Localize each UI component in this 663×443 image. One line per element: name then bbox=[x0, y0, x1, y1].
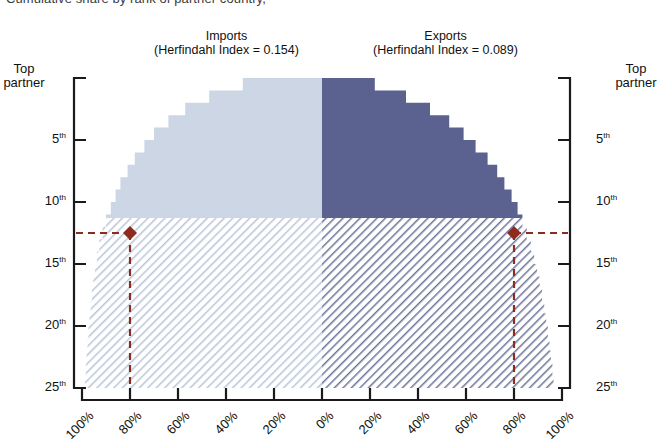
left-ytick-15th: 15th bbox=[20, 255, 66, 270]
left-ytick-10th: 10th bbox=[20, 193, 66, 208]
right-ytick-5th: 5th bbox=[596, 131, 648, 146]
left-ytick-25th: 25th bbox=[20, 379, 66, 394]
chart-root: Cumulative share by rank of partner coun… bbox=[0, 0, 663, 443]
left-ytick-5th: 5th bbox=[20, 131, 66, 146]
plot-area bbox=[0, 0, 663, 443]
right-ytick-15th: 15th bbox=[596, 255, 648, 270]
right-ytick-25th: 25th bbox=[596, 379, 648, 394]
imports-area bbox=[85, 78, 322, 388]
right-ytick-20th: 20th bbox=[596, 317, 648, 332]
left-ytick-20th: 20th bbox=[20, 317, 66, 332]
right-ytick-10th: 10th bbox=[596, 193, 648, 208]
